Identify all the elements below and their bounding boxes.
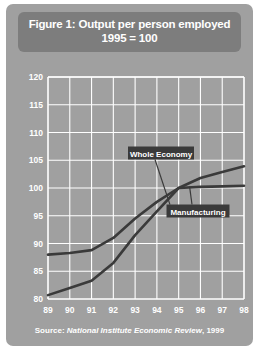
x-tick-94: 94 [152, 305, 162, 315]
y-tick-110: 110 [29, 128, 43, 138]
x-tick-91: 91 [87, 305, 97, 315]
source-journal: National Institute Economic Review [67, 326, 202, 335]
x-tick-97: 97 [217, 305, 227, 315]
y-axis-tick-labels: 80859095100105110115120 [29, 72, 43, 304]
y-tick-80: 80 [34, 294, 44, 304]
annotation-label-manufacturing: Manufacturing [170, 208, 225, 217]
annotation-label-whole-economy: Whole Economy [130, 150, 193, 159]
x-tick-90: 90 [65, 305, 75, 315]
y-tick-90: 90 [34, 239, 44, 249]
line-chart: 80859095100105110115120 8990919293949596… [6, 4, 253, 346]
y-tick-100: 100 [29, 183, 43, 193]
plot-area: 80859095100105110115120 8990919293949596… [6, 4, 253, 346]
data-series-lines [48, 166, 244, 295]
source-prefix: Source: [35, 326, 65, 335]
x-tick-89: 89 [43, 305, 53, 315]
y-tick-115: 115 [29, 100, 43, 110]
x-tick-96: 96 [196, 305, 206, 315]
x-tick-93: 93 [130, 305, 140, 315]
x-tick-95: 95 [174, 305, 184, 315]
x-tick-92: 92 [109, 305, 119, 315]
x-tick-98: 98 [239, 305, 249, 315]
y-tick-85: 85 [34, 266, 44, 276]
series-line-whole-economy [48, 186, 244, 255]
x-axis-tick-labels: 89909192939495969798 [43, 305, 249, 315]
source-year: , 1999 [202, 326, 224, 335]
source-note: Source: National Institute Economic Revi… [18, 326, 241, 335]
figure-panel: Figure 1: Output per person employed 199… [6, 4, 253, 346]
y-tick-120: 120 [29, 72, 43, 82]
y-tick-95: 95 [34, 211, 44, 221]
y-tick-105: 105 [29, 155, 43, 165]
annotation-leader-line [190, 186, 192, 204]
